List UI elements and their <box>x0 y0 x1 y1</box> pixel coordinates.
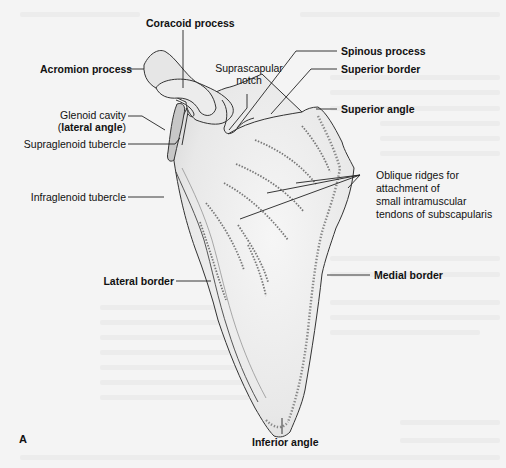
label-oblique-ridges: Oblique ridges for attachment of small i… <box>376 169 492 221</box>
label-supraglenoid-tubercle: Supraglenoid tubercle <box>0 138 126 150</box>
label-medial-border: Medial border <box>374 269 443 281</box>
figure-canvas: Coracoid process Acromion process Supras… <box>0 0 506 468</box>
label-glenoid-cavity: Glenoid cavity (lateral angle) <box>20 109 126 133</box>
panel-letter: A <box>19 433 27 445</box>
label-spinous-process: Spinous process <box>341 45 426 57</box>
scapula-body <box>173 74 354 437</box>
label-superior-border: Superior border <box>341 63 420 75</box>
label-suprascapular-notch: Suprascapular notch <box>214 62 284 86</box>
label-lateral-angle: lateral angle <box>61 121 122 133</box>
label-lateral-border: Lateral border <box>80 275 174 287</box>
label-superior-angle: Superior angle <box>341 103 415 115</box>
label-acromion-process: Acromion process <box>40 63 125 75</box>
label-coracoid-process: Coracoid process <box>146 17 235 29</box>
label-inferior-angle: Inferior angle <box>252 436 319 448</box>
label-infraglenoid-tubercle: Infraglenoid tubercle <box>0 191 126 203</box>
